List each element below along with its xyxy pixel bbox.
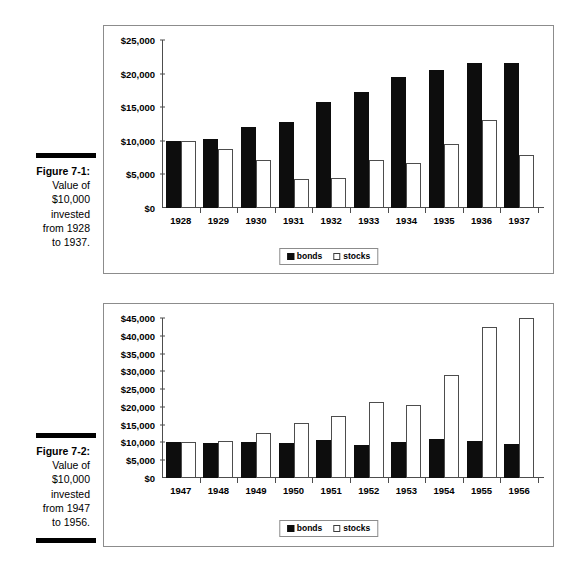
x-axis-tick-label: 1951 bbox=[312, 478, 350, 496]
caption-line: Value of bbox=[0, 458, 96, 472]
chart-legend-7-2: bonds stocks bbox=[279, 520, 378, 537]
bar-bonds bbox=[203, 443, 218, 478]
y-axis-tick-label: $5,000 bbox=[126, 455, 162, 466]
plot-area-7-1: $0$5,000$10,000$15,000$20,000$25,0001928… bbox=[162, 40, 538, 208]
bar-stocks bbox=[369, 402, 384, 478]
bar-stocks bbox=[181, 442, 196, 478]
y-axis-tick-label: $10,000 bbox=[121, 437, 162, 448]
figure-caption-7-2: Figure 7-2: Value of $10,000 invested fr… bbox=[0, 433, 96, 543]
bar-group: 1931 bbox=[275, 122, 313, 208]
bar-group: 1932 bbox=[312, 102, 350, 208]
bar-bonds bbox=[391, 442, 406, 478]
chart-legend-7-1: bonds stocks bbox=[279, 248, 378, 265]
bar-group: 1930 bbox=[237, 127, 275, 208]
bar-stocks bbox=[256, 160, 271, 208]
x-axis-tick-label: 1929 bbox=[200, 208, 238, 226]
bar-bonds bbox=[279, 443, 294, 478]
legend-swatch-stocks-icon bbox=[333, 525, 340, 532]
bar-group: 1937 bbox=[500, 63, 538, 208]
bar-bonds bbox=[241, 442, 256, 478]
bar-bonds bbox=[316, 102, 331, 208]
figure-number: Figure 7-1: bbox=[0, 164, 96, 178]
caption-line: to 1956. bbox=[0, 515, 96, 529]
bar-group: 1952 bbox=[350, 402, 388, 478]
y-axis-tick-label: $0 bbox=[144, 203, 162, 214]
bar-stocks bbox=[331, 178, 346, 208]
bar-group: 1955 bbox=[463, 327, 501, 478]
caption-line: to 1937. bbox=[0, 235, 96, 249]
bar-group: 1956 bbox=[500, 318, 538, 478]
x-axis-tick-label: 1953 bbox=[388, 478, 426, 496]
legend-swatch-bonds-icon bbox=[287, 525, 294, 532]
x-axis-tick-mark bbox=[538, 478, 539, 483]
legend-swatch-bonds-icon bbox=[287, 253, 294, 260]
bar-bonds bbox=[166, 442, 181, 478]
y-axis-tick-label: $20,000 bbox=[121, 401, 162, 412]
y-axis-tick-label: $25,000 bbox=[121, 384, 162, 395]
bar-group: 1947 bbox=[162, 442, 200, 478]
x-axis-tick-label: 1955 bbox=[463, 478, 501, 496]
bar-group: 1929 bbox=[200, 139, 238, 208]
y-axis-tick-label: $20,000 bbox=[121, 68, 162, 79]
bar-bonds bbox=[354, 92, 369, 208]
bar-stocks bbox=[482, 120, 497, 208]
chart-panel-7-2: $0$5,000$10,000$15,000$20,000$25,000$30,… bbox=[103, 303, 554, 547]
x-axis-tick-label: 1947 bbox=[162, 478, 200, 496]
plot-area-7-2: $0$5,000$10,000$15,000$20,000$25,000$30,… bbox=[162, 318, 538, 478]
x-axis-tick-label: 1936 bbox=[463, 208, 501, 226]
x-axis-tick-mark bbox=[538, 208, 539, 213]
caption-rule bbox=[36, 153, 96, 158]
bar-bonds bbox=[316, 440, 331, 478]
x-axis-tick-label: 1937 bbox=[500, 208, 538, 226]
bar-stocks bbox=[406, 405, 421, 478]
bar-stocks bbox=[256, 433, 271, 478]
bar-group: 1935 bbox=[425, 70, 463, 208]
x-axis-tick-label: 1948 bbox=[200, 478, 238, 496]
bar-group: 1933 bbox=[350, 92, 388, 208]
bar-stocks bbox=[519, 318, 534, 478]
bar-stocks bbox=[482, 327, 497, 478]
y-axis-tick-mark bbox=[160, 40, 165, 41]
x-axis-tick-label: 1931 bbox=[275, 208, 313, 226]
bar-group: 1936 bbox=[463, 63, 501, 208]
x-axis-tick-label: 1932 bbox=[312, 208, 350, 226]
y-axis-tick-mark bbox=[160, 335, 165, 336]
bar-bonds bbox=[391, 77, 406, 208]
bar-stocks bbox=[369, 160, 384, 208]
bar-bonds bbox=[203, 139, 218, 208]
bar-group: 1948 bbox=[200, 441, 238, 478]
y-axis-tick-label: $35,000 bbox=[121, 348, 162, 359]
caption-line: Value of bbox=[0, 178, 96, 192]
bar-stocks bbox=[444, 144, 459, 208]
x-axis-tick-label: 1949 bbox=[237, 478, 275, 496]
x-axis-tick-label: 1950 bbox=[275, 478, 313, 496]
bar-group: 1950 bbox=[275, 423, 313, 478]
bar-stocks bbox=[331, 416, 346, 478]
bar-stocks bbox=[218, 149, 233, 208]
caption-line: invested bbox=[0, 487, 96, 501]
y-axis-tick-mark bbox=[160, 353, 165, 354]
legend-label-bonds: bonds bbox=[297, 251, 323, 261]
x-axis-tick-label: 1930 bbox=[237, 208, 275, 226]
legend-item-bonds: bonds bbox=[287, 523, 323, 533]
bar-group: 1949 bbox=[237, 433, 275, 478]
bar-group: 1954 bbox=[425, 375, 463, 478]
legend-item-stocks: stocks bbox=[333, 251, 370, 261]
bar-bonds bbox=[279, 122, 294, 208]
bar-bonds bbox=[504, 444, 519, 478]
y-axis-tick-label: $0 bbox=[144, 473, 162, 484]
caption-line: invested bbox=[0, 207, 96, 221]
x-axis-tick-label: 1934 bbox=[388, 208, 426, 226]
bar-group: 1951 bbox=[312, 416, 350, 478]
figure-caption-7-1: Figure 7-1: Value of $10,000 invested fr… bbox=[0, 153, 96, 249]
bar-group: 1934 bbox=[388, 77, 426, 208]
y-axis-tick-label: $40,000 bbox=[121, 330, 162, 341]
caption-line: $10,000 bbox=[0, 192, 96, 206]
y-axis-tick-mark bbox=[160, 318, 165, 319]
bar-bonds bbox=[504, 63, 519, 208]
legend-label-bonds: bonds bbox=[297, 523, 323, 533]
bar-bonds bbox=[429, 70, 444, 208]
legend-label-stocks: stocks bbox=[343, 251, 370, 261]
y-axis-tick-label: $5,000 bbox=[126, 169, 162, 180]
bar-stocks bbox=[444, 375, 459, 478]
